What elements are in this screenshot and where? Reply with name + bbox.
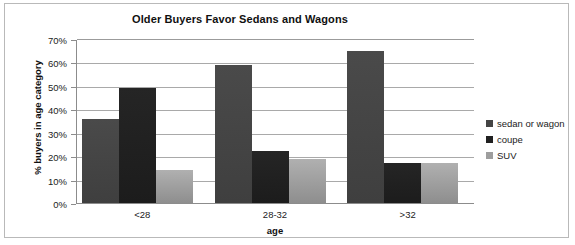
legend-label: SUV [497,150,517,161]
bar[interactable] [156,170,193,203]
bar-group [347,40,458,203]
plot-area [76,40,474,204]
legend-label: coupe [497,134,523,145]
legend-swatch-icon [486,136,493,143]
chart-frame: Older Buyers Favor Sedans and Wagons % b… [4,3,569,238]
chart-legend: sedan or wagoncoupeSUV [486,115,565,163]
legend-swatch-icon [486,120,493,127]
x-axis-title: age [76,225,474,236]
y-axis-tick [71,204,76,205]
x-axis-tick-label: 28-32 [263,209,287,220]
y-axis-tick-label: 40% [48,105,67,116]
y-axis-tick-label: 50% [48,81,67,92]
legend-swatch-icon [486,152,493,159]
x-axis-tick-label: >32 [400,209,416,220]
bar[interactable] [119,88,156,203]
bar[interactable] [421,163,458,203]
bar[interactable] [82,119,119,203]
y-axis-tick-label: 10% [48,175,67,186]
legend-item[interactable]: coupe [486,131,565,147]
bar-group [82,40,193,203]
bar[interactable] [347,51,384,203]
y-axis-tick-labels: 0%10%20%30%40%50%60%70% [5,4,76,204]
legend-item[interactable]: SUV [486,147,565,163]
y-axis-tick-label: 70% [48,35,67,46]
y-axis-tick-label: 30% [48,128,67,139]
bar[interactable] [384,163,421,203]
bar[interactable] [289,159,326,204]
bar[interactable] [215,65,252,203]
bar[interactable] [252,151,289,203]
y-axis-tick-label: 20% [48,152,67,163]
bar-group [215,40,326,203]
y-axis-tick-label: 0% [53,199,67,210]
y-axis-tick-label: 60% [48,58,67,69]
legend-item[interactable]: sedan or wagon [486,115,565,131]
legend-label: sedan or wagon [497,118,565,129]
bar-series-container [77,40,474,203]
x-axis-tick-label: <28 [134,209,150,220]
